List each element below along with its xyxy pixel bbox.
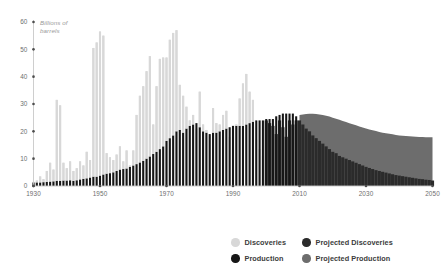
legend-swatch-discoveries [231,238,240,247]
legend-item-projected-production[interactable]: Projected Production [302,254,390,263]
y-tick-0: 0 [14,182,28,189]
x-tick-1930: 1930 [21,190,47,197]
legend-label-production: Production [245,254,284,263]
legend-swatch-projected-discoveries [302,238,311,247]
legend-label-projected-discoveries: Projected Discoveries [316,238,393,247]
legend-item-production[interactable]: Production [231,254,284,263]
x-tick-1990: 1990 [220,190,246,197]
x-tick-2050: 2050 [420,190,445,197]
y-tick-40: 40 [14,73,28,80]
y-tick-60: 60 [14,18,28,25]
x-tick-1970: 1970 [154,190,180,197]
legend-label-discoveries: Discoveries [245,238,287,247]
x-tick-2010: 2010 [287,190,313,197]
y-axis-title: Billions of barrels [40,19,84,34]
y-tick-30: 30 [14,100,28,107]
x-tick-1950: 1950 [87,190,113,197]
legend-swatch-projected-production [302,254,311,263]
y-tick-10: 10 [14,155,28,162]
legend-swatch-production [231,254,240,263]
legend-item-discoveries[interactable]: Discoveries [231,238,286,247]
y-tick-50: 50 [14,46,28,53]
y-tick-20: 20 [14,128,28,135]
legend-label-projected-production: Projected Production [316,254,391,263]
x-tick-2030: 2030 [353,190,379,197]
legend-item-projected-discoveries[interactable]: Projected Discoveries [302,238,393,247]
